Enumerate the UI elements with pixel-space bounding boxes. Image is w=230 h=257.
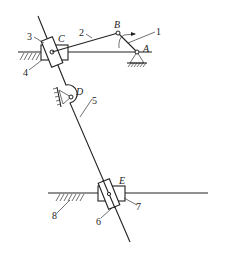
label-a: A [142,43,150,54]
label-1: 1 [156,26,161,37]
label-d: D [75,86,84,97]
crank-1 [118,33,137,52]
joint-b-pin [116,31,120,35]
label-c: C [58,33,65,44]
label-5: 5 [92,95,97,106]
label-e: E [118,175,125,186]
label-8: 8 [52,210,57,221]
label-3: 3 [27,31,32,42]
mechanism-diagram: A B C D E 1 2 3 4 5 6 7 8 [0,0,230,257]
rotation-arrow-icon [119,32,136,48]
label-2: 2 [79,27,84,38]
ground-hatch-8 [56,194,84,201]
label-6: 6 [96,216,101,227]
ground-hatch-upper-left [20,53,40,60]
label-4: 4 [23,67,28,78]
label-b: B [114,19,120,30]
label-7: 7 [136,201,141,212]
joint-e-pin [107,192,110,195]
